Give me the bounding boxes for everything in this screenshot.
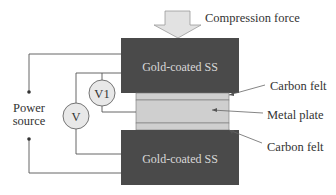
voltmeter-v-label: V xyxy=(71,110,80,124)
diagram: Compression force Gold-coated SS Gold-co… xyxy=(0,0,336,195)
metal-plate-layer xyxy=(136,100,229,123)
metal-plate-label: Metal plate xyxy=(267,108,324,122)
carbon-felt-top-label: Carbon felt xyxy=(270,79,327,93)
power-source-label-line2: source xyxy=(13,114,46,128)
power-source-label-line1: Power xyxy=(13,101,46,115)
carbon-felt-bottom-label: Carbon felt xyxy=(267,140,324,154)
top-block-label: Gold-coated SS xyxy=(142,60,218,74)
compression-force-label: Compression force xyxy=(205,11,300,25)
voltmeter-v1-label: V1 xyxy=(94,87,109,101)
carbon-felt-top-layer xyxy=(136,93,229,100)
power-terminal-bottom-dot xyxy=(27,137,31,141)
carbon-felt-bottom-layer xyxy=(136,123,229,130)
bottom-block-label: Gold-coated SS xyxy=(142,152,218,166)
power-terminal-top-dot xyxy=(27,90,31,94)
compression-arrow-icon xyxy=(154,11,201,38)
